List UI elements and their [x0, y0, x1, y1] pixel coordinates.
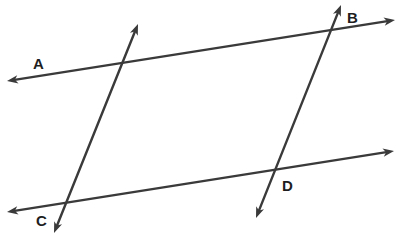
line-top: [7, 18, 395, 84]
transversal-right: [256, 5, 341, 218]
transversal-left: [54, 24, 138, 233]
label-b: B: [347, 9, 358, 26]
label-d: D: [282, 177, 293, 194]
line-segment: [258, 11, 339, 213]
labels-layer: A B C D: [33, 9, 358, 229]
line-segment: [13, 152, 388, 211]
parallel-lines-diagram: A B C D: [0, 0, 402, 238]
label-a: A: [33, 55, 44, 72]
line-segment: [13, 21, 389, 80]
lines-layer: [7, 5, 395, 233]
label-c: C: [36, 212, 47, 229]
